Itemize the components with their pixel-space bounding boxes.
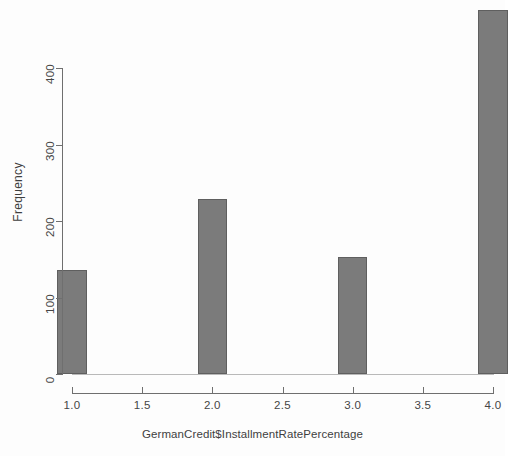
y-tick-label: 100: [44, 294, 56, 314]
y-tick-mark: [56, 221, 63, 222]
x-tick-mark: [423, 387, 424, 394]
y-tick-label: 300: [44, 141, 56, 161]
x-tick-mark: [283, 387, 284, 394]
y-tick-label: 400: [44, 64, 56, 84]
y-tick-label: 0: [44, 377, 56, 384]
y-tick-mark: [56, 374, 63, 375]
bar-category-2: [198, 199, 227, 374]
y-tick-mark: [56, 298, 63, 299]
x-tick-label: 3.0: [333, 399, 373, 411]
x-axis-title: GermanCredit$InstallmentRatePercentage: [0, 428, 505, 440]
x-tick-label: 4.0: [473, 399, 512, 411]
x-tick-mark: [72, 387, 73, 394]
plot-baseline: [72, 374, 494, 375]
x-tick-label: 3.5: [403, 399, 443, 411]
y-tick-mark: [56, 68, 63, 69]
x-tick-mark: [493, 387, 494, 394]
y-tick-label: 200: [44, 217, 56, 237]
x-tick-label: 2.5: [263, 399, 303, 411]
bar-category-3: [338, 257, 367, 374]
x-tick-label: 1.5: [122, 399, 162, 411]
y-tick-mark: [56, 145, 63, 146]
x-tick-label: 1.0: [52, 399, 92, 411]
x-tick-label: 2.0: [192, 399, 232, 411]
x-tick-mark: [353, 387, 354, 394]
x-tick-mark: [142, 387, 143, 394]
bar-category-4: [478, 10, 507, 374]
x-tick-mark: [212, 387, 213, 394]
y-axis-title: Frequency: [11, 152, 25, 232]
